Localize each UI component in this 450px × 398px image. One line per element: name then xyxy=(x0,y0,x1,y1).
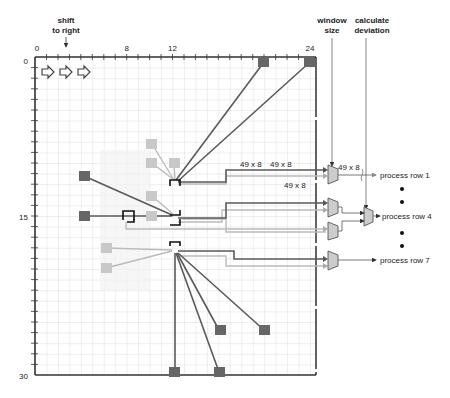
y-tick-label-0: 0 xyxy=(24,57,29,66)
deviation-label-line1: calculate xyxy=(355,16,390,25)
mux-row7-icon xyxy=(328,251,338,270)
bus-label-c: 49 x 8 xyxy=(284,181,306,190)
mux-row1-icon xyxy=(328,165,338,184)
x-tick-label-8: 8 xyxy=(124,44,129,53)
mux-row4a-icon xyxy=(328,198,338,217)
deviation-label-line2: deviation xyxy=(354,26,389,35)
window-size-label-line1: window xyxy=(316,16,347,25)
mux-input-arrows xyxy=(323,167,328,262)
bus-label-d: 49 x 8 xyxy=(338,163,360,172)
shift-label-line1: shift xyxy=(58,16,75,25)
x-tick-label-12: 12 xyxy=(168,44,177,53)
mux-input-arrows-light xyxy=(323,173,328,269)
x-tick-label-24: 24 xyxy=(306,44,315,53)
output-wires xyxy=(338,175,380,260)
window-size-label-line2: size xyxy=(324,26,340,35)
output-row1: process row 1 xyxy=(380,171,430,180)
mux-deviation-icon xyxy=(364,207,373,226)
x-tick-label-0: 0 xyxy=(35,44,40,53)
window-mapping-diagram: 0 8 12 24 0 15 30 shift to right window … xyxy=(0,0,450,398)
mux-row4b-icon xyxy=(328,222,338,240)
y-tick-label-30: 30 xyxy=(19,372,28,381)
output-row4: process row 4 xyxy=(382,212,432,221)
bus-label-b: 49 x 8 xyxy=(270,160,292,169)
shift-label-line2: to right xyxy=(52,26,80,35)
output-row7: process row 7 xyxy=(380,256,430,265)
bus-label-a: 49 x 8 xyxy=(240,160,262,169)
y-tick-label-15: 15 xyxy=(19,213,28,222)
